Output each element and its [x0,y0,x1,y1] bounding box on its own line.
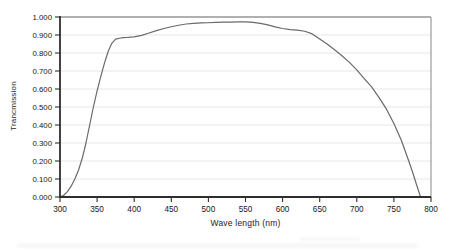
x-tick-label: 650 [313,205,327,214]
x-tick-label: 400 [127,205,141,214]
x-tick-label: 750 [387,205,401,214]
y-tick-label: 0.300 [32,139,52,148]
scan-artifact [300,238,360,240]
y-tick-label: 0.100 [32,175,52,184]
x-tick-label: 500 [202,205,216,214]
y-axis-label: Trancmission [9,81,18,131]
x-tick-label: 450 [164,205,178,214]
x-tick-label: 300 [53,205,67,214]
y-tick-label: 0.700 [32,67,52,76]
x-tick-label: 350 [90,205,104,214]
x-tick-label: 550 [239,205,253,214]
x-tick-label: 800 [424,205,438,214]
y-tick-label: 1.000 [32,13,52,22]
x-axis-label: Wave length (nm) [60,218,431,228]
x-tick-label: 700 [350,205,364,214]
y-tick-label: 0.900 [32,31,52,40]
transmission-curve [60,22,421,197]
scan-artifact [18,244,418,247]
y-tick-label: 0.200 [32,157,52,166]
y-tick-label: 0.000 [32,193,52,202]
y-tick-label: 0.500 [32,103,52,112]
transmission-figure: 0.0000.1000.2000.3000.4000.5000.6000.700… [0,0,454,250]
y-tick-label: 0.600 [32,85,52,94]
y-tick-label: 0.400 [32,121,52,130]
x-tick-label: 600 [276,205,290,214]
y-tick-label: 0.800 [32,49,52,58]
transmission-chart: 0.0000.1000.2000.3000.4000.5000.6000.700… [0,0,454,250]
